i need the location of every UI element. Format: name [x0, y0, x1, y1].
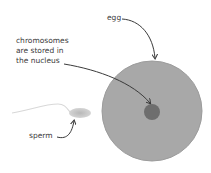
- chromosomes-label-line1: chromosomes: [16, 36, 69, 46]
- chromosomes-label-line2: are stored in: [16, 46, 63, 56]
- diagram-graphics: [0, 0, 211, 173]
- egg-arrow: [122, 19, 155, 58]
- sperm-arrow: [57, 121, 74, 138]
- sperm-head: [69, 108, 91, 118]
- sperm-label: sperm: [29, 131, 53, 141]
- sperm-tail: [12, 104, 70, 113]
- nucleus: [144, 104, 160, 120]
- fertilization-diagram: egg chromosomes are stored in the nucleu…: [0, 0, 211, 173]
- egg-label: egg: [107, 13, 121, 23]
- chromosomes-label-line3: the nucleus: [16, 56, 60, 66]
